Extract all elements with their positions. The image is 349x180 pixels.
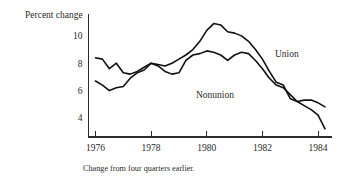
series-line-union [95, 24, 325, 129]
x-tick-label-1980: 1980 [197, 143, 216, 153]
figure-container: Percent change4681019761978198019821984U… [0, 0, 349, 180]
y-tick-label-8: 8 [78, 59, 83, 69]
x-tick-label-1978: 1978 [142, 143, 161, 153]
x-tick-label-1984: 1984 [309, 143, 328, 153]
axes-group [89, 14, 333, 137]
series-label-union: Union [275, 49, 299, 59]
chart-caption: Change from four quarters earlier. [83, 164, 195, 173]
y-tick-label-4: 4 [78, 113, 83, 123]
series-paths [95, 24, 325, 129]
y-tick-label-6: 6 [78, 86, 83, 96]
chart-text-labels: Percent change4681019761978198019821984U… [25, 10, 328, 173]
x-tick-label-1982: 1982 [253, 143, 272, 153]
axis-ticks [95, 131, 318, 137]
series-label-nonunion: Nonunion [196, 90, 234, 100]
axis-lines [89, 14, 333, 137]
x-tick-label-1976: 1976 [86, 143, 105, 153]
line-chart: Percent change4681019761978198019821984U… [0, 0, 349, 180]
y-tick-label-10: 10 [73, 31, 83, 41]
y-axis-title: Percent change [25, 10, 83, 20]
